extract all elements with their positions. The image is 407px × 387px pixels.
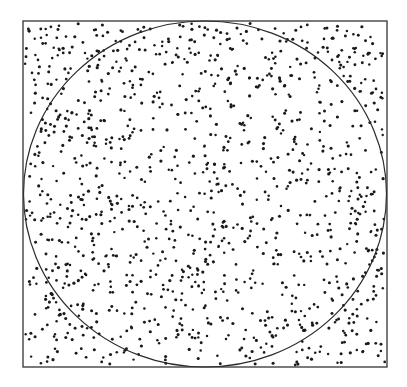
sample-point (366, 53, 369, 56)
sample-point (339, 64, 342, 67)
sample-point (37, 59, 40, 62)
sample-point (375, 321, 377, 323)
sample-point (159, 106, 161, 108)
sample-point (43, 141, 46, 144)
sample-point (243, 129, 246, 132)
sample-point (206, 335, 209, 338)
sample-point (158, 53, 161, 56)
sample-point (327, 353, 329, 355)
sample-point (281, 293, 283, 295)
sample-point (165, 128, 168, 131)
sample-point (322, 145, 325, 148)
sample-point (323, 38, 326, 41)
sample-point (293, 140, 296, 143)
sample-point (347, 200, 350, 203)
sample-point (48, 71, 50, 73)
sample-point (33, 218, 36, 221)
sample-point (67, 241, 70, 244)
sample-point (40, 127, 43, 130)
sample-point (371, 91, 374, 94)
sample-point (170, 223, 173, 226)
sample-point (82, 193, 85, 196)
sample-point (303, 315, 306, 318)
sample-point (59, 204, 61, 206)
sample-point (103, 119, 106, 122)
sample-point (318, 168, 321, 171)
sample-point (245, 42, 248, 45)
sample-point (265, 170, 267, 172)
sample-point (380, 350, 382, 352)
sample-point (190, 112, 193, 115)
sample-point (188, 161, 191, 164)
sample-point (48, 301, 51, 304)
sample-point (217, 191, 219, 193)
sample-point (67, 226, 70, 229)
sample-point (45, 34, 47, 36)
sample-point (140, 280, 143, 283)
sample-point (123, 138, 126, 141)
sample-point (152, 128, 155, 131)
sample-point (51, 238, 54, 241)
sample-point (128, 118, 131, 121)
sample-point (143, 201, 146, 204)
sample-point (356, 290, 359, 293)
sample-point (138, 48, 141, 51)
sample-point (203, 26, 206, 29)
sample-point (223, 90, 226, 93)
sample-point (50, 83, 53, 86)
sample-point (119, 108, 122, 111)
sample-point (81, 308, 84, 311)
sample-point (295, 361, 298, 364)
sample-point (314, 352, 317, 355)
sample-point (79, 198, 82, 201)
sample-point (46, 324, 49, 327)
sample-point (135, 166, 138, 169)
sample-point (113, 231, 115, 233)
sample-point (313, 76, 316, 79)
sample-point (101, 184, 104, 187)
sample-point (81, 41, 84, 44)
sample-point (129, 134, 132, 137)
sample-point (93, 29, 96, 32)
sample-point (63, 282, 66, 285)
sample-point (170, 104, 173, 107)
sample-point (209, 54, 212, 57)
sample-point (300, 26, 303, 29)
sample-point (334, 321, 336, 323)
sample-point (262, 252, 265, 255)
sample-point (241, 203, 244, 206)
sample-point (379, 96, 382, 99)
sample-point (370, 171, 373, 174)
sample-point (62, 312, 65, 315)
sample-point (55, 36, 58, 39)
sample-point (128, 220, 131, 223)
sample-point (182, 25, 185, 28)
sample-point (278, 122, 281, 125)
sample-point (306, 251, 309, 254)
sample-point (66, 332, 69, 335)
sample-point (29, 283, 32, 286)
sample-point (342, 330, 345, 333)
sample-point (152, 100, 155, 103)
sample-point (308, 307, 311, 310)
sample-point (33, 153, 36, 156)
sample-point (94, 90, 97, 93)
sample-point (325, 195, 328, 198)
sample-point (295, 58, 298, 61)
sample-point (187, 265, 190, 268)
sample-point (256, 199, 258, 201)
sample-point (337, 286, 340, 289)
sample-point (92, 237, 95, 240)
sample-point (266, 310, 269, 313)
sample-point (308, 214, 311, 217)
sample-point (51, 57, 54, 60)
sample-point (327, 168, 330, 171)
sample-point (90, 309, 93, 312)
sample-point (369, 329, 372, 332)
sample-point (100, 210, 103, 213)
sample-point (168, 238, 171, 241)
sample-point (65, 35, 68, 38)
sample-point (75, 113, 78, 116)
sample-point (95, 320, 98, 323)
sample-point (181, 324, 184, 327)
